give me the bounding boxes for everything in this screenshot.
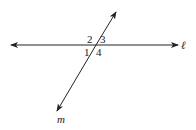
line-m-down (57, 45, 96, 111)
angle-1-label: 1 (84, 46, 90, 58)
angle-3-label: 3 (100, 33, 106, 45)
line-m-up (96, 12, 116, 45)
diagram-canvas: ℓ m 2 3 1 4 (0, 0, 196, 130)
angle-4-label: 4 (96, 46, 102, 58)
label-m: m (57, 113, 65, 125)
angle-2-label: 2 (87, 33, 93, 45)
intersecting-lines-diagram: ℓ m 2 3 1 4 (0, 0, 196, 130)
label-l: ℓ (181, 39, 186, 51)
